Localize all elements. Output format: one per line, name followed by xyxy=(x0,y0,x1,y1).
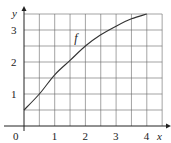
y-axis-arrow-icon xyxy=(22,6,27,11)
grid xyxy=(24,14,162,126)
y-axis-label: y xyxy=(11,7,17,19)
x-axis-label: x xyxy=(156,130,162,142)
y-tick-label: 3 xyxy=(11,24,17,36)
x-tick-label: 4 xyxy=(144,130,150,142)
function-label: f xyxy=(74,31,79,45)
x-tick-label: 3 xyxy=(113,130,119,142)
x-axis-arrow-icon xyxy=(166,124,171,129)
x-tick-label: 2 xyxy=(82,130,88,142)
x-tick-label: 0 xyxy=(13,130,19,142)
x-tick-label: 1 xyxy=(52,130,58,142)
axes xyxy=(4,6,171,131)
y-tick-label: 2 xyxy=(11,56,17,68)
y-tick-label: 1 xyxy=(11,88,17,100)
tick-labels: 01234123 xyxy=(11,24,150,142)
function-graph: 01234123 x y f xyxy=(0,0,171,143)
